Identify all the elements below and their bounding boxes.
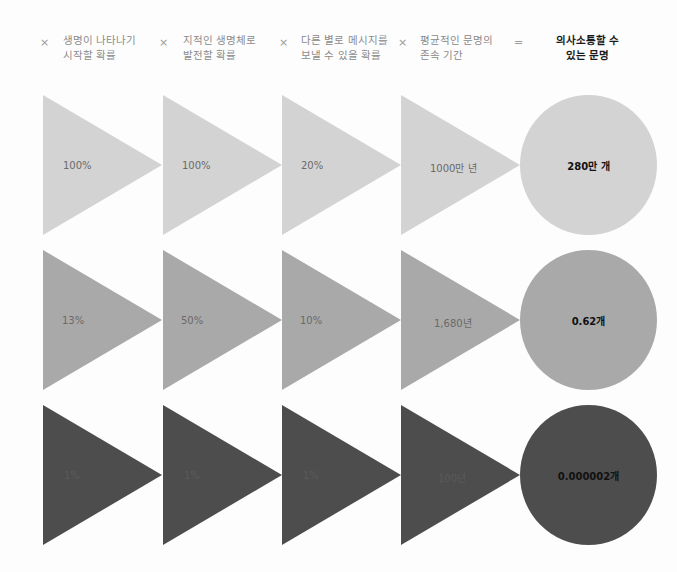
result-circle: 0.62개 [520,250,657,390]
factor-value: 100% [63,160,92,171]
result-value: 280만 개 [567,158,609,173]
result-value: 0.000002개 [558,468,620,483]
multiply-operator: × [159,36,168,49]
result-header: 의사소통할 수 있는 문명 [540,33,635,63]
result-circle: 280만 개 [520,95,657,235]
factor-value: 20% [301,160,323,171]
multiply-operator: × [398,36,407,49]
factor-value: 1,680년 [434,315,472,330]
factor-value: 13% [62,315,84,326]
multiply-operator: × [279,36,288,49]
result-circle: 0.000002개 [520,405,657,545]
factor-value: 100% [182,160,211,171]
factor-value: 1% [184,470,200,481]
factor-header-communication: 다른 별로 메시지를 보낼 수 있을 확률 [301,33,388,63]
factor-value: 1% [64,470,80,481]
factor-value: 50% [181,315,203,326]
factor-value: 100년 [438,470,466,485]
factor-triangle [43,405,162,545]
factor-triangle [282,95,401,235]
equals-operator: = [514,36,523,49]
factor-triangle [43,95,162,235]
factor-header-lifetime: 평균적인 문명의 존속 기간 [420,33,493,63]
factor-header-intelligence: 지적인 생명체로 발전할 확률 [183,33,256,63]
factor-header-life: 생명이 나타나기 시작할 확률 [63,33,136,63]
factor-triangle [282,405,401,545]
factor-triangle [163,405,282,545]
result-value: 0.62개 [572,313,606,328]
factor-triangle [43,250,162,390]
multiply-operator: × [40,36,49,49]
factor-value: 1000만 년 [430,160,477,175]
factor-triangle [163,95,282,235]
factor-value: 10% [300,315,322,326]
factor-value: 1% [303,470,319,481]
